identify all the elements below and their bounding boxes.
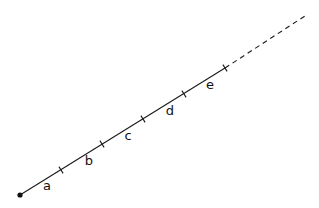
solid-ray-line (20, 68, 225, 195)
origin-point (17, 192, 22, 197)
segment-label-a: a (43, 178, 51, 193)
tick-mark (141, 116, 145, 123)
segment-label-d: d (166, 103, 174, 118)
segment-label-e: e (206, 77, 214, 92)
segment-label-c: c (124, 128, 131, 143)
tick-mark (223, 65, 227, 72)
dashed-continuation-line (225, 14, 308, 68)
segment-labels: a b c d e (43, 77, 214, 193)
segment-label-b: b (85, 153, 93, 168)
tick-mark (100, 141, 104, 148)
segmented-ray-diagram: a b c d e (0, 0, 319, 208)
